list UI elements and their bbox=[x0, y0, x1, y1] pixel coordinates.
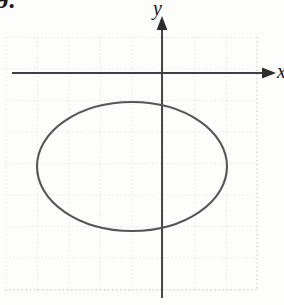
coordinate-plot bbox=[0, 0, 284, 305]
y-axis-label: y bbox=[153, 0, 162, 18]
plot-svg bbox=[0, 0, 284, 305]
x-axis-label: x bbox=[277, 61, 284, 81]
grid bbox=[5, 37, 257, 291]
figure-container: 9. bbox=[0, 0, 284, 305]
